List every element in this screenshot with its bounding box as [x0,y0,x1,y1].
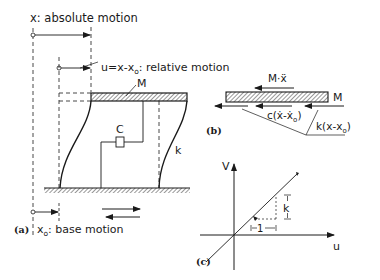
base-motion-arrow [31,203,59,222]
panel-b-tag: (b) [206,125,222,136]
spring-force-label: k(x-xo) [316,120,351,135]
mass-plate [91,93,187,101]
inertia-force-label: M·ẍ [268,72,287,84]
panel-a-tag: (a) [14,224,29,235]
mass-label: M [137,77,147,90]
undeformed-outline [59,93,159,188]
panel-c: V u k 1 (c) [196,160,340,270]
free-body-mass [226,92,328,102]
panel-a: x: absolute motion u=x-xo: relative moti… [14,11,230,238]
stiffness-line [206,173,298,262]
slope-label: k [283,202,290,215]
ground-hatch [44,188,190,193]
base-motion-label: xo: base motion [37,223,124,238]
relative-motion-arrow [57,57,98,92]
shaking-arrows [102,209,140,217]
damper [101,101,143,188]
run-dimension [251,225,276,231]
structural-dynamics-diagram: x: absolute motion u=x-xo: relative moti… [0,0,380,280]
x-axis-label: u [333,240,340,253]
absolute-motion-label: x: absolute motion [30,11,138,25]
free-body-mass-label: M [333,91,343,104]
damping-force-label: c(ẋ-ẋo) [267,109,302,124]
damper-label: C [116,123,124,136]
panel-c-tag: (c) [196,256,211,267]
slope-triangle [254,196,276,219]
left-column [60,101,91,188]
run-label: 1 [257,223,263,234]
absolute-motion-arrow [31,27,91,92]
spring-label: k [175,144,182,157]
relative-motion-label: u=x-xo: relative motion [101,61,230,76]
panel-b: M·ẍ M c(ẋ-ẋo) k(x-xo) (b) [206,72,351,136]
stiffness-line-arrow-down [253,216,258,221]
right-column [159,101,187,188]
y-axis-label: V [222,160,230,173]
